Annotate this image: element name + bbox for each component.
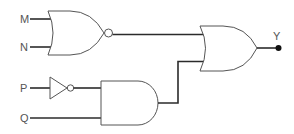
not-gate-inversion-bubble (67, 85, 73, 91)
nor-gate-body (48, 11, 104, 55)
input-label-m: M (20, 13, 29, 25)
not-gate (50, 77, 74, 99)
input-label-n: N (20, 41, 28, 53)
output-label-y: Y (273, 30, 281, 42)
not-gate-body (50, 77, 67, 99)
and-gate-body (101, 81, 158, 125)
input-label-p: P (20, 82, 27, 94)
logic-circuit-diagram: M N P Q Y (0, 0, 294, 134)
or-gate-body (200, 26, 257, 71)
output-terminal-dot (276, 45, 282, 51)
nor-gate-inversion-bubble (105, 29, 113, 37)
input-label-q: Q (20, 112, 29, 124)
wire-and-to-or (158, 62, 204, 104)
and-gate (101, 81, 158, 125)
or-gate (200, 26, 257, 71)
nor-gate (48, 11, 113, 55)
